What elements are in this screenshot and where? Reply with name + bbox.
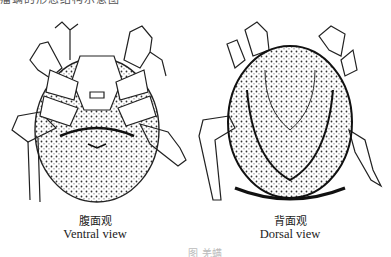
cropped-header-text: 瘤螨的形态结构示意图 — [0, 0, 136, 5]
ventral-view-caption: 腹面观 Ventral view — [50, 215, 140, 241]
dorsal-view-illustration — [195, 20, 391, 210]
figure-caption: 图 羌螨 — [150, 247, 260, 257]
dorsal-view-caption: 背面观 Dorsal view — [245, 215, 335, 241]
ventral-view-illustration — [0, 20, 195, 210]
